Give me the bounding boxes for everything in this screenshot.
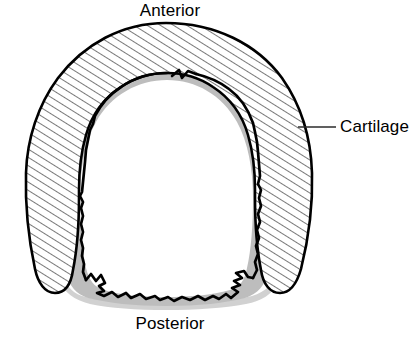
tracheal-cross-section-drawing — [0, 0, 419, 337]
label-posterior: Posterior — [0, 315, 340, 332]
label-cartilage: Cartilage — [340, 118, 409, 135]
label-anterior: Anterior — [0, 2, 340, 19]
anatomical-figure: Anterior Posterior Cartilage — [0, 0, 419, 337]
cartilage-ring — [26, 23, 312, 293]
